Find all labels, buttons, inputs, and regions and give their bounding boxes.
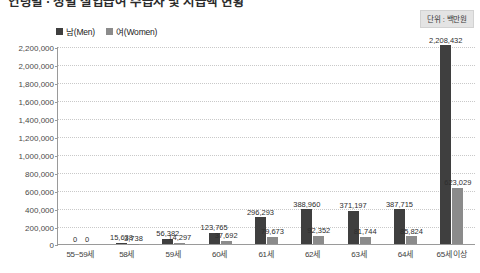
bar-wrap-men: 123,765 — [209, 47, 220, 244]
legend-item-men[interactable]: 남(Men) — [56, 25, 95, 37]
bar-pair: 296,29379,673 — [243, 47, 289, 244]
y-axis-tick-label: 600,000 — [25, 188, 54, 197]
bar-wrap-men: 388,960 — [301, 47, 312, 244]
x-axis-labels: 55~59세58세59세60세61세62세63세64세65세 이상 — [57, 248, 475, 259]
x-axis-tick-label: 63세 — [336, 248, 382, 259]
x-axis-tick-label: 64세 — [382, 248, 428, 259]
plot-area: 0200,000400,000600,000800,0001,000,0001,… — [57, 47, 475, 245]
bar-value-label: 2,208,432 — [429, 37, 462, 45]
y-axis-tick-label: 800,000 — [25, 170, 54, 179]
bar-value-label: 0 — [85, 236, 89, 244]
bar-group: 388,96092,352 — [290, 47, 336, 244]
bar-wrap-women: 81,744 — [360, 47, 371, 244]
y-axis-tick-label: 1,200,000 — [18, 134, 54, 143]
bar-wrap-women: 92,352 — [313, 47, 324, 244]
x-axis-tick-label: 61세 — [243, 248, 289, 259]
bar-wrap-women: 14,297 — [174, 47, 185, 244]
bar-group: 15,6383,738 — [104, 47, 150, 244]
bar-pair: 387,71585,824 — [382, 47, 428, 244]
bar-group: 00 — [58, 47, 104, 244]
bar-pair: 388,96092,352 — [290, 47, 336, 244]
legend-item-women[interactable]: 여(Women) — [106, 25, 157, 37]
legend-swatch-women — [106, 28, 113, 35]
bar-pair: 371,19781,744 — [336, 47, 382, 244]
bar-women[interactable] — [221, 241, 232, 244]
y-axis-tick-label: 200,000 — [25, 224, 54, 233]
bar-pair: 2,208,432623,029 — [429, 47, 475, 244]
x-axis-tick-label: 62세 — [289, 248, 335, 259]
bar-wrap-women: 79,673 — [267, 47, 278, 244]
bar-wrap-men: 15,638 — [116, 47, 127, 244]
chart-legend: 남(Men) 여(Women) — [56, 25, 157, 37]
bar-wrap-men: 387,715 — [394, 47, 405, 244]
bar-women[interactable] — [174, 243, 185, 244]
bar-wrap-men: 56,382 — [162, 47, 173, 244]
y-axis-tick-label: 1,600,000 — [18, 98, 54, 107]
bar-value-label: 3,738 — [124, 235, 143, 243]
bar-value-label: 92,352 — [307, 227, 330, 235]
chart-screenshot: 연령별 · 성별 실업급여 수급자 및 지급액 현황 단위 : 백만원 남(Me… — [0, 0, 480, 273]
y-axis-tick-label: 1,400,000 — [18, 116, 54, 125]
y-axis-tick-label: 1,000,000 — [18, 152, 54, 161]
bar-group: 56,38214,297 — [151, 47, 197, 244]
legend-label-women: 여(Women) — [116, 25, 157, 37]
bar-value-label: 85,824 — [400, 228, 423, 236]
bar-groups: 0015,6383,73856,38214,297123,76537,69229… — [58, 47, 475, 244]
bar-group: 123,76537,692 — [197, 47, 243, 244]
bar-wrap-men: 371,197 — [348, 47, 359, 244]
bar-women[interactable] — [267, 237, 278, 244]
bar-pair: 56,38214,297 — [151, 47, 197, 244]
bar-wrap-women: 623,029 — [452, 47, 463, 244]
bar-wrap-men: 0 — [70, 47, 81, 244]
bar-group: 296,29379,673 — [243, 47, 289, 244]
bar-women[interactable] — [452, 188, 463, 244]
x-axis-tick-label: 60세 — [196, 248, 242, 259]
bar-women[interactable] — [313, 236, 324, 244]
x-axis-tick-label: 65세 이상 — [429, 248, 475, 259]
y-axis-tick-label: 2,200,000 — [18, 44, 54, 53]
bar-pair: 123,76537,692 — [197, 47, 243, 244]
y-axis-tick-label: 0 — [50, 241, 54, 250]
y-axis-tick-label: 400,000 — [25, 206, 54, 215]
bar-wrap-women: 3,738 — [128, 47, 139, 244]
bar-pair: 00 — [58, 47, 104, 244]
bar-group: 2,208,432623,029 — [429, 47, 475, 244]
bar-women[interactable] — [406, 236, 417, 244]
bar-group: 387,71585,824 — [382, 47, 428, 244]
page-title: 연령별 · 성별 실업급여 수급자 및 지급액 현황 — [8, 0, 245, 10]
x-axis-tick-label: 59세 — [150, 248, 196, 259]
bar-wrap-women: 37,692 — [221, 47, 232, 244]
bar-wrap-men: 296,293 — [255, 47, 266, 244]
legend-swatch-men — [56, 28, 63, 35]
x-axis-tick-label: 55~59세 — [57, 248, 103, 259]
bar-pair: 15,6383,738 — [104, 47, 150, 244]
bar-women[interactable] — [360, 237, 371, 244]
bar-men[interactable] — [440, 45, 451, 244]
unit-badge: 단위 : 백만원 — [420, 10, 474, 28]
x-axis-tick-label: 58세 — [103, 248, 149, 259]
legend-label-men: 남(Men) — [66, 25, 95, 37]
y-axis-tick-mark — [55, 245, 58, 246]
bar-value-label: 14,297 — [168, 234, 191, 242]
y-axis-tick-label: 1,800,000 — [18, 80, 54, 89]
bar-value-label: 79,673 — [261, 228, 284, 236]
bar-wrap-men: 2,208,432 — [440, 47, 451, 244]
y-axis-tick-label: 2,000,000 — [18, 62, 54, 71]
bar-group: 371,19781,744 — [336, 47, 382, 244]
bar-value-label: 37,692 — [215, 232, 238, 240]
bar-value-label: 81,744 — [354, 228, 377, 236]
bar-value-label: 623,029 — [444, 179, 471, 187]
bar-wrap-women: 0 — [82, 47, 93, 244]
bar-value-label: 0 — [73, 236, 77, 244]
bar-wrap-women: 85,824 — [406, 47, 417, 244]
